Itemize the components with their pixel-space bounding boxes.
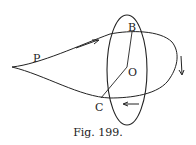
radius-OC <box>101 67 127 98</box>
label-O: O <box>128 67 137 78</box>
arrow-lower <box>123 102 139 106</box>
diagram-canvas <box>0 0 196 145</box>
radius-OB <box>127 32 132 67</box>
arrow-upper <box>76 40 99 48</box>
label-P: P <box>33 53 40 64</box>
figure-caption: Fig. 199. <box>0 126 196 139</box>
label-B: B <box>128 22 136 33</box>
arrow-right <box>179 56 184 75</box>
label-C: C <box>95 102 103 113</box>
